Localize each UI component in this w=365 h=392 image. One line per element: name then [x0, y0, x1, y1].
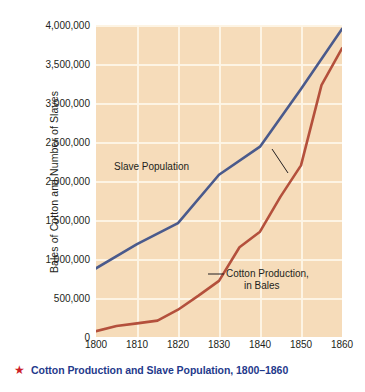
cotton-production-annotation: Cotton Production, in Bales [226, 268, 309, 292]
y-axis-tick-labels: 0500,0001,000,0001,500,0002,000,0002,500… [22, 25, 90, 337]
x-tick-label: 1860 [331, 339, 353, 350]
y-tick-label: 1,000,000 [22, 254, 90, 265]
x-tick-label: 1820 [167, 339, 189, 350]
slave-label-leader-line [272, 149, 288, 173]
y-tick-label: 3,000,000 [22, 98, 90, 109]
x-tick-label: 1800 [85, 339, 107, 350]
y-tick-label: 0 [22, 332, 90, 343]
chart-caption: ★ Cotton Production and Slave Population… [14, 364, 288, 376]
cotton-annotation-line1: Cotton Production, [226, 268, 309, 279]
y-tick-label: 3,500,000 [22, 59, 90, 70]
x-tick-label: 1810 [126, 339, 148, 350]
x-tick-label: 1850 [290, 339, 312, 350]
x-tick-label: 1830 [208, 339, 230, 350]
plot-area: Slave Population Cotton Production, in B… [96, 25, 342, 337]
caption-title: Cotton Production and Slave Population, … [31, 364, 288, 376]
x-tick-label: 1840 [249, 339, 271, 350]
chart-figure: Bales of Cotton and Number of Slaves 050… [0, 0, 365, 392]
slave-population-annotation: Slave Population [114, 161, 189, 173]
y-tick-label: 1,500,000 [22, 215, 90, 226]
y-tick-label: 500,000 [22, 293, 90, 304]
cotton-annotation-line2: in Bales [226, 280, 309, 292]
y-tick-label: 2,500,000 [22, 137, 90, 148]
star-icon: ★ [14, 364, 25, 376]
x-axis-tick-labels: 1800181018201830184018501860 [96, 339, 342, 355]
y-tick-label: 2,000,000 [22, 176, 90, 187]
y-tick-label: 4,000,000 [22, 20, 90, 31]
